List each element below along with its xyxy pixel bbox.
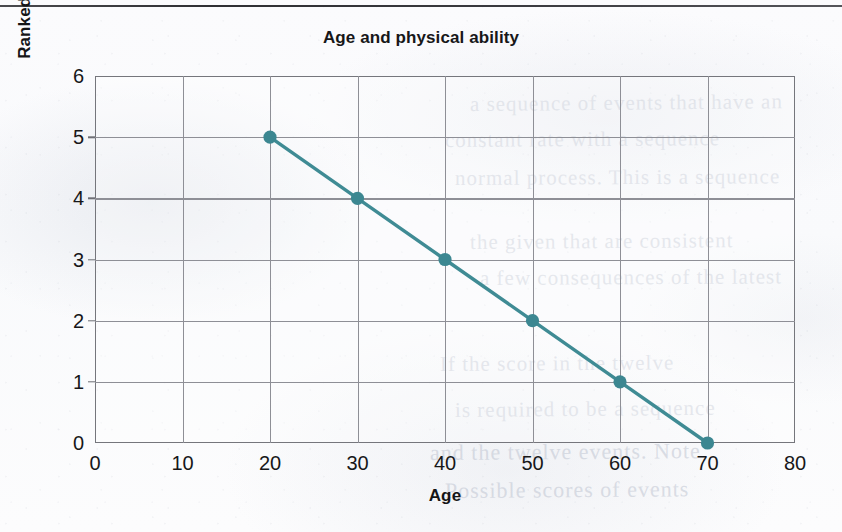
top-horizontal-rule bbox=[0, 5, 842, 7]
x-axis-label: Age bbox=[95, 486, 795, 506]
y-tick-label: 4 bbox=[73, 187, 84, 210]
plot-area: 0123456 01020304050607080 bbox=[95, 76, 795, 443]
data-point-marker bbox=[263, 131, 276, 144]
x-tick-label: 20 bbox=[259, 452, 281, 475]
data-point-marker bbox=[613, 375, 626, 388]
y-tick-label: 6 bbox=[73, 65, 84, 88]
y-tick-mark bbox=[88, 198, 95, 199]
y-axis-label: Ranked score for physicial ability bbox=[10, 0, 40, 106]
data-point-marker bbox=[438, 253, 451, 266]
x-tick-label: 0 bbox=[89, 452, 100, 475]
data-point-marker bbox=[701, 436, 714, 449]
y-tick-label: 1 bbox=[73, 370, 84, 393]
scanned-figure-page: a sequence of events that have anconstan… bbox=[0, 0, 842, 532]
y-tick-mark bbox=[88, 320, 95, 321]
y-tick-mark bbox=[88, 259, 95, 260]
y-tick-label: 2 bbox=[73, 309, 84, 332]
x-tick-label: 80 bbox=[784, 452, 806, 475]
y-tick-label: 5 bbox=[73, 126, 84, 149]
data-point-marker bbox=[526, 314, 539, 327]
chart-title: Age and physical ability bbox=[0, 28, 842, 48]
series-line bbox=[270, 137, 708, 443]
x-tick-label: 40 bbox=[434, 452, 456, 475]
y-tick-label: 3 bbox=[73, 248, 84, 271]
data-series-line bbox=[95, 76, 795, 443]
data-point-marker bbox=[351, 192, 364, 205]
x-tick-label: 60 bbox=[609, 452, 631, 475]
x-tick-label: 10 bbox=[171, 452, 193, 475]
y-tick-mark bbox=[88, 136, 95, 137]
x-tick-label: 30 bbox=[346, 452, 368, 475]
x-tick-label: 70 bbox=[696, 452, 718, 475]
y-tick-mark bbox=[88, 381, 95, 382]
x-tick-label: 50 bbox=[521, 452, 543, 475]
y-tick-label: 0 bbox=[73, 432, 84, 455]
